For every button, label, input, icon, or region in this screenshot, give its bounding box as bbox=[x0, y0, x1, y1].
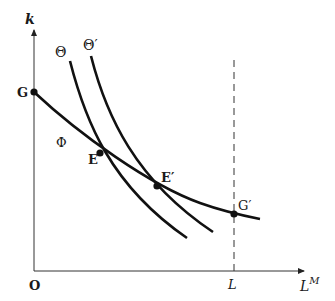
g-label: G bbox=[17, 85, 28, 100]
theta-prime-label: Θ′ bbox=[83, 37, 98, 53]
point-e-prime bbox=[153, 182, 160, 189]
theta-prime-curve bbox=[91, 56, 213, 232]
x-tick-label-l: L bbox=[227, 277, 237, 292]
point-g bbox=[30, 88, 37, 95]
e-label: E bbox=[88, 152, 98, 167]
g-prime-label: G′ bbox=[238, 198, 251, 213]
diagram-canvas: k O L LM Θ Θ′ Φ G E E′ G′ bbox=[0, 0, 335, 301]
theta-label: Θ bbox=[55, 44, 66, 60]
theta-curve bbox=[70, 61, 187, 238]
origin-label: O bbox=[29, 278, 40, 293]
phi-label: Φ bbox=[56, 135, 67, 150]
e-prime-label: E′ bbox=[161, 170, 175, 185]
point-g-prime bbox=[230, 210, 237, 217]
phi-curve bbox=[34, 92, 260, 219]
y-axis-label: k bbox=[25, 11, 35, 27]
x-axis-label: LM bbox=[299, 275, 320, 294]
